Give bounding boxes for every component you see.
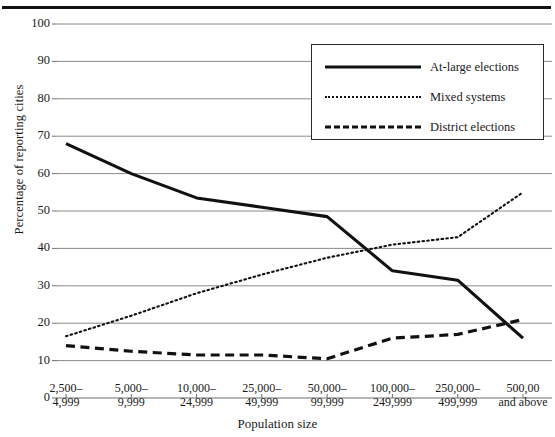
y-axis-title: Percentage of reporting cities	[12, 55, 27, 265]
x-axis-tick-label: 5,000–9,999	[94, 382, 168, 409]
x-axis-tick-label: 500,00and above	[486, 382, 555, 409]
y-axis-tick-label: 50	[16, 204, 50, 217]
x-axis-tick-label: 250,000–499,999	[421, 382, 495, 409]
chart-figure: Percentage of reporting cities 100908070…	[0, 0, 555, 437]
x-axis-title: Population size	[0, 416, 555, 432]
legend-line-sample-solid	[325, 60, 421, 74]
series-line-solid	[66, 144, 523, 338]
x-axis-tick-label-line: 500,00	[486, 382, 555, 396]
x-axis-tick-label-line: 49,999	[225, 396, 299, 410]
series-line-dashed	[66, 319, 523, 358]
x-axis-tick-label: 10,000–24,999	[160, 382, 234, 409]
y-axis-tick-label: 90	[16, 54, 50, 67]
x-axis-tick-label-line: 250,000–	[421, 382, 495, 396]
y-axis-tick-label: 70	[16, 129, 50, 142]
y-axis-tick-label: 10	[16, 354, 50, 367]
legend-item: Mixed systems	[312, 87, 543, 107]
y-axis-tick-label: 30	[16, 279, 50, 292]
x-axis-tick-label-line: 499,999	[421, 396, 495, 410]
x-axis-tick-label-line: 99,999	[290, 396, 364, 410]
x-axis-tick-label: 2,500–4,999	[29, 382, 103, 409]
x-axis-tick-label-line: 10,000–	[160, 382, 234, 396]
x-axis-tick-label-line: 24,999	[160, 396, 234, 410]
x-axis-tick-label: 100,000–249,999	[355, 382, 429, 409]
x-axis-tick-label-line: 100,000–	[355, 382, 429, 396]
x-axis-tick-label: 50,000–99,999	[290, 382, 364, 409]
y-axis-tick-label: 60	[16, 167, 50, 180]
x-axis-tick-label-line: and above	[486, 396, 555, 410]
legend-item-label: At-large elections	[430, 60, 519, 75]
legend-line-sample-dotted	[325, 90, 421, 104]
x-axis-tick-label-line: 5,000–	[94, 382, 168, 396]
y-axis-tick-label: 20	[16, 316, 50, 329]
series-line-dotted	[66, 192, 523, 336]
y-axis-tick-label: 100	[16, 17, 50, 30]
legend: At-large electionsMixed systemsDistrict …	[311, 44, 544, 140]
legend-item-label: Mixed systems	[430, 90, 505, 105]
x-axis-tick-label-line: 2,500–	[29, 382, 103, 396]
x-axis-tick-label-line: 4,999	[29, 396, 103, 410]
x-axis-tick-label-line: 25,000–	[225, 382, 299, 396]
legend-item-label: District elections	[430, 120, 515, 135]
y-axis-tick-label: 80	[16, 92, 50, 105]
x-axis-tick-label-line: 50,000–	[290, 382, 364, 396]
legend-item: District elections	[312, 117, 543, 137]
x-axis-tick-label: 25,000–49,999	[225, 382, 299, 409]
x-axis-tick-label-line: 9,999	[94, 396, 168, 410]
x-axis-tick-label-line: 249,999	[355, 396, 429, 410]
y-axis-tick-label: 40	[16, 241, 50, 254]
legend-line-sample-dashed	[325, 120, 421, 134]
legend-item: At-large elections	[312, 57, 543, 77]
